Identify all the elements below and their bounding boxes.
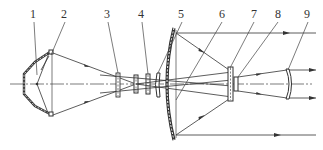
field-lens — [156, 73, 161, 97]
optical-system-diagram: 1 2 3 4 5 6 7 8 9 — [0, 0, 323, 150]
label-1: 1 — [30, 7, 36, 21]
label-4: 4 — [138, 7, 144, 21]
label-9: 9 — [304, 7, 310, 21]
label-7: 7 — [251, 7, 257, 21]
label-3: 3 — [104, 7, 110, 21]
label-8: 8 — [275, 7, 281, 21]
callout-labels: 1 2 3 4 5 6 7 8 9 — [30, 7, 310, 21]
label-6: 6 — [219, 7, 225, 21]
label-2: 2 — [61, 7, 67, 21]
left-faceted-reflector — [24, 50, 53, 116]
secondary-mirror-7 — [228, 67, 238, 101]
label-5: 5 — [178, 7, 184, 21]
